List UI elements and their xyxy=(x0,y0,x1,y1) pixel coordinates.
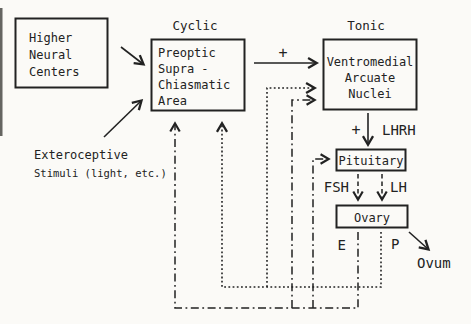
exteroceptive-line2: Stimuli (light, etc.) xyxy=(34,167,167,179)
tonic-label: Tonic xyxy=(347,18,385,33)
ventromedial-line1: Ventromedial xyxy=(327,55,414,69)
estrogen-label: E xyxy=(338,237,346,253)
hnc-to-preoptic-arrow xyxy=(121,47,143,64)
plus-to-tonic-sign: + xyxy=(278,44,287,62)
plus-lhrh-sign: + xyxy=(351,121,360,139)
scan-edge-artifact xyxy=(0,8,3,136)
ventromedial-line2: Arcuate xyxy=(345,71,396,85)
preoptic-line4: Area xyxy=(158,94,187,108)
stimuli-to-preoptic-arrow xyxy=(104,101,141,137)
exteroceptive-line1: Exteroceptive xyxy=(34,148,128,162)
pituitary-box: Pituitary xyxy=(337,150,406,171)
ovulation-arrow xyxy=(409,232,428,249)
preoptic-line1: Preoptic xyxy=(158,46,216,60)
higher-neural-centers-line2: Neural xyxy=(29,48,72,62)
estrogen-to-tonic-arrow xyxy=(292,100,314,308)
exteroceptive-stimuli-label: Exteroceptive Stimuli (light, etc.) xyxy=(34,148,167,179)
cyclic-label: Cyclic xyxy=(172,18,217,33)
lh-label: LH xyxy=(390,179,407,195)
ovary-label: Ovary xyxy=(354,211,390,225)
progesterone-label: P xyxy=(391,236,399,252)
pituitary-label: Pituitary xyxy=(338,154,403,168)
ventromedial-arcuate-box: Ventromedial Arcuate Nuclei xyxy=(324,40,417,110)
hpo-axis-diagram: Cyclic Tonic Higher Neural Centers Preop… xyxy=(0,0,471,324)
ovary-box: Ovary xyxy=(337,206,408,228)
diagram-canvas: Cyclic Tonic Higher Neural Centers Preop… xyxy=(0,0,471,324)
lhrh-label: LHRH xyxy=(382,122,416,138)
higher-neural-centers-line1: Higher xyxy=(29,31,72,45)
ventromedial-line3: Nuclei xyxy=(348,87,391,101)
preoptic-line3: Chiasmatic xyxy=(158,78,230,92)
higher-neural-centers-line3: Centers xyxy=(29,65,80,79)
higher-neural-centers-box: Higher Neural Centers xyxy=(16,19,108,88)
ovum-label: Ovum xyxy=(417,255,451,271)
progesterone-to-tonic-arrow xyxy=(267,88,314,287)
preoptic-suprachiasmatic-box: Preoptic Supra - Chiasmatic Area xyxy=(152,40,245,111)
preoptic-line2: Supra - xyxy=(158,62,209,76)
fsh-label: FSH xyxy=(324,179,349,195)
